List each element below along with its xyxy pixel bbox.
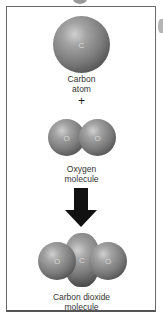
oxygen-atom-right: O: [79, 119, 116, 156]
carbon-atom: C: [53, 16, 110, 73]
carbon-atom-label-line1: Carbon: [0, 74, 163, 84]
oxygen-symbol: O: [79, 133, 116, 142]
down-arrow-head: [65, 210, 97, 227]
co2-label-line1: Carbon dioxide: [0, 292, 163, 302]
down-arrow-icon: [74, 188, 88, 212]
co2-oxygen-atom-right: O: [89, 242, 127, 280]
plus-sign: +: [0, 94, 163, 108]
oxygen-molecule-label-line1: Oxygen: [0, 164, 163, 174]
co2-label-line2: molecule: [0, 302, 163, 312]
binding-nub-side: [158, 19, 163, 33]
binding-nub-top: [73, 0, 87, 4]
carbon-atom-label-line2: atom: [0, 84, 163, 94]
oxygen-symbol: O: [89, 257, 127, 266]
co2-oxygen-atom-left: O: [38, 242, 76, 280]
carbon-symbol: C: [53, 40, 110, 49]
oxygen-molecule-label-line2: molecule: [0, 174, 163, 184]
oxygen-symbol: O: [38, 257, 76, 266]
